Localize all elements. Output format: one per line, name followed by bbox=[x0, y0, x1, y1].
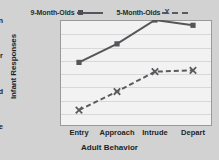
x-tick-intrude: Intrude bbox=[142, 128, 167, 137]
series-line-5-month-olds bbox=[79, 70, 193, 110]
y-tick-frown: Frown bbox=[0, 16, 3, 25]
square-marker-icon bbox=[152, 20, 157, 23]
square-marker-icon bbox=[78, 10, 83, 15]
x-tick-entry: Entry bbox=[69, 128, 88, 137]
x-tick-approach: Approach bbox=[99, 128, 134, 137]
square-marker-icon bbox=[76, 60, 81, 65]
legend-swatch-5-month-olds: x bbox=[162, 8, 188, 17]
x-marker-icon bbox=[152, 68, 158, 74]
series-line-9-month-olds bbox=[79, 20, 193, 62]
y-tick-fascinated: Fascinated bbox=[0, 86, 3, 95]
x-axis-title: Adult Behavior bbox=[0, 143, 219, 152]
chart-legend: 9-Month-Olds 5-Month-Olds x bbox=[0, 4, 219, 20]
legend-label-5-month-olds: 5-Month-Olds bbox=[117, 9, 161, 16]
x-tick-depart: Depart bbox=[181, 128, 205, 137]
x-marker-icon: x bbox=[162, 7, 171, 16]
legend-item-5-month-olds[interactable]: 5-Month-Olds x bbox=[117, 8, 189, 17]
legend-label-9-month-olds: 9-Month-Olds bbox=[31, 9, 75, 16]
chart-container: 9-Month-Olds 5-Month-Olds x Infant Respo… bbox=[0, 0, 219, 160]
square-marker-icon bbox=[190, 23, 195, 28]
series-layer bbox=[60, 20, 212, 126]
y-tick-smile: Smile bbox=[0, 122, 3, 131]
square-marker-icon bbox=[114, 41, 119, 46]
legend-swatch-9-month-olds bbox=[77, 8, 103, 17]
legend-item-9-month-olds[interactable]: 9-Month-Olds bbox=[31, 8, 103, 17]
y-tick-somber: Somber bbox=[0, 51, 3, 60]
y-axis-title: Infant Responses bbox=[9, 19, 18, 115]
